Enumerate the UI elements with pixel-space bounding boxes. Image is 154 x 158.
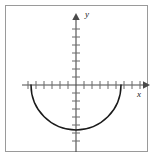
y-axis-label: y [84, 9, 89, 19]
coordinate-plane-svg: x y [0, 0, 154, 158]
x-axis-label: x [136, 89, 141, 99]
graph-figure: x y [0, 0, 154, 158]
